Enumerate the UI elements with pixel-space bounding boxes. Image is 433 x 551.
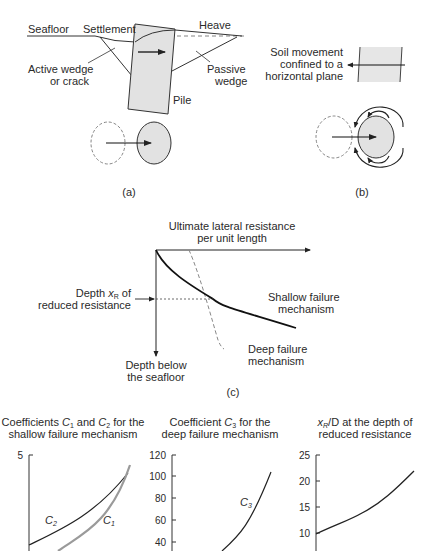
chart3-tick-10: 10 xyxy=(299,528,311,539)
chart-c3: Coefficient C3 for the deep failure mech… xyxy=(149,416,278,551)
caption-b: (b) xyxy=(355,186,368,198)
depth-xr-label-2: reduced resistance xyxy=(38,299,131,311)
panel-c: Ultimate lateral resistance per unit len… xyxy=(38,220,340,398)
soil-movement-label-1: Soil movement xyxy=(270,46,343,58)
x-axis-label-1: Ultimate lateral resistance xyxy=(169,220,296,232)
chart1-tick-5: 5 xyxy=(17,450,23,461)
chart2-tick-40: 40 xyxy=(155,537,167,548)
deep-label-2: mechanism xyxy=(248,355,304,367)
caption-c: (c) xyxy=(227,386,240,398)
soil-movement-label-3: horizontal plane xyxy=(265,70,343,82)
c3-curve xyxy=(222,472,271,551)
figure-canvas: Seafloor Settlement Heave Active wedge o… xyxy=(0,0,433,551)
deep-failure-curve xyxy=(189,250,224,349)
chart2-tick-60: 60 xyxy=(155,515,167,526)
chart1-title-2: shallow failure mechanism xyxy=(9,428,138,440)
deep-label-1: Deep failure xyxy=(248,343,307,355)
settlement-label: Settlement xyxy=(83,23,136,35)
active-wedge-label-2: or crack xyxy=(50,75,90,87)
panel-a: Seafloor Settlement Heave Active wedge o… xyxy=(27,19,247,198)
caption-a: (a) xyxy=(122,186,135,198)
chart2-title-2: deep failure mechanism xyxy=(162,428,279,440)
c2-label: C2 xyxy=(45,514,57,527)
passive-wedge-label-2: wedge xyxy=(214,75,247,87)
shallow-label-2: mechanism xyxy=(278,303,334,315)
soil-movement-label-2: confined to a xyxy=(280,58,344,70)
chart2-tick-100: 100 xyxy=(149,471,166,482)
seafloor-label: Seafloor xyxy=(28,23,69,35)
panel-b: Soil movement confined to a horizontal p… xyxy=(265,46,405,198)
y-axis-label-2: the seafloor xyxy=(127,371,185,383)
chart3-tick-15: 15 xyxy=(299,502,311,513)
active-wedge-line xyxy=(100,37,132,76)
x-axis-label-2: per unit length xyxy=(197,232,267,244)
c3-label: C3 xyxy=(240,496,252,509)
active-wedge-label-1: Active wedge xyxy=(28,63,93,75)
chart3-tick-25: 25 xyxy=(299,450,311,461)
shallow-failure-curve xyxy=(156,250,296,328)
chart-c1-c2: Coefficients C1 and C2 for the shallow f… xyxy=(2,416,145,551)
pile xyxy=(128,24,175,114)
c1-label: C1 xyxy=(103,514,115,527)
chart3-tick-20: 20 xyxy=(299,476,311,487)
pile-label: Pile xyxy=(173,94,191,106)
xr-d-curve xyxy=(316,471,414,534)
shallow-label-1: Shallow failure xyxy=(268,291,340,303)
heave-label: Heave xyxy=(199,19,231,31)
chart3-title-2: reduced resistance xyxy=(319,428,412,440)
active-wedge-leader xyxy=(88,48,115,63)
chart-xr-d: xR/D at the depth of reduced resistance … xyxy=(299,416,414,551)
chart2-tick-120: 120 xyxy=(149,450,166,461)
y-axis-label-1: Depth below xyxy=(125,359,186,371)
passive-wedge-label-1: Passive xyxy=(207,63,246,75)
c2-curve xyxy=(29,473,128,545)
chart2-tick-80: 80 xyxy=(155,493,167,504)
